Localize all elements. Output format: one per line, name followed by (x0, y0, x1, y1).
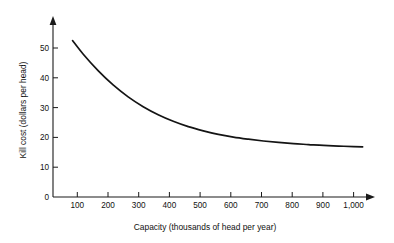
y-tick-label-10: 10 (40, 163, 50, 172)
x-tick-label-300: 300 (132, 201, 146, 210)
x-tick-label-1000: 1,000 (343, 201, 364, 210)
x-tick-label-200: 200 (101, 201, 115, 210)
y-tick-label-40: 40 (40, 74, 50, 83)
x-axis-title: Capacity (thousands of head per year) (134, 222, 277, 232)
x-tick-label-400: 400 (163, 201, 177, 210)
y-axis-title: Kill cost (dollars per head) (18, 61, 28, 158)
y-tick-label-0: 0 (44, 193, 49, 202)
x-tick-label-800: 800 (285, 201, 299, 210)
y-tick-label-20: 20 (40, 133, 50, 142)
y-tick-label-30: 30 (40, 104, 50, 113)
chart-svg: 50 40 30 20 10 0 100 200 300 400 500 (0, 0, 394, 243)
x-tick-label-600: 600 (224, 201, 238, 210)
x-tick-label-100: 100 (70, 201, 84, 210)
x-tick-label-900: 900 (316, 201, 330, 210)
y-tick-label-50: 50 (40, 44, 50, 53)
chart-figure: 50 40 30 20 10 0 100 200 300 400 500 (0, 0, 394, 243)
x-tick-label-700: 700 (255, 201, 269, 210)
x-tick-label-500: 500 (193, 201, 207, 210)
